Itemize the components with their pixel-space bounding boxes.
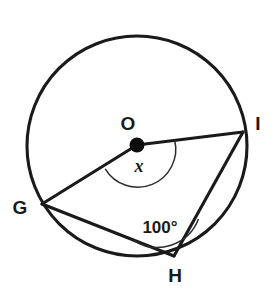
geometry-diagram: O G H I x 100°	[0, 0, 277, 293]
label-point-i: I	[255, 113, 260, 134]
label-point-o: O	[121, 113, 136, 134]
center-point-dot	[130, 138, 145, 153]
label-angle-100-degrees: 100°	[142, 218, 177, 237]
label-point-h: H	[168, 265, 182, 286]
label-point-g: G	[13, 197, 28, 218]
circle-geometry-svg: O G H I x 100°	[0, 0, 277, 293]
label-angle-x: x	[134, 156, 144, 176]
